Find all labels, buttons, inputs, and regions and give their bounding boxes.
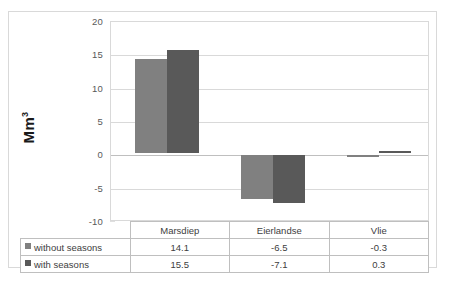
cell-with-seasons-vlie: 0.3 [329,256,429,273]
y-tick-label: 15 [92,49,103,60]
legend-swatch-icon [25,243,31,249]
category-header-marsdiep: Marsdiep [130,222,229,239]
gridline-15 [111,55,428,56]
data-table: Marsdiep Eierlandse Vlie without seasons… [20,221,429,273]
table-row-categories: Marsdiep Eierlandse Vlie [21,222,429,239]
y-axis-tick-labels: 20 15 10 5 0 -5 -10 [69,21,107,221]
table-corner-cell [21,222,131,239]
category-header-vlie: Vlie [329,222,429,239]
y-axis-title-text: Mm [21,116,38,142]
bar-marsdiep-with-seasons [167,50,199,153]
y-tick-label: 10 [92,82,103,93]
y-axis-title-superscript: 3 [21,111,31,116]
legend-item-without-seasons: without seasons [21,239,131,256]
bar-vlie-without-seasons [347,155,379,157]
y-tick-label: -5 [94,182,103,193]
y-axis-title: Mm3 [15,72,43,182]
bar-marsdiep-without-seasons [135,59,167,153]
table-row: with seasons 15.5 -7.1 0.3 [21,256,429,273]
plot-area [110,21,429,221]
bar-eierlandse-with-seasons [273,155,305,202]
bar-eierlandse-without-seasons [241,155,273,198]
legend-label-with-seasons: with seasons [34,259,89,270]
cell-with-seasons-eierlandse: -7.1 [230,256,329,273]
cell-with-seasons-marsdiep: 15.5 [130,256,229,273]
bar-vlie-with-seasons [379,151,411,153]
chart-figure: Mm3 20 15 10 5 0 -5 -10 [8,11,437,268]
table-row: without seasons 14.1 -6.5 -0.3 [21,239,429,256]
y-tick-label: 0 [98,149,103,160]
cell-without-seasons-vlie: -0.3 [329,239,429,256]
category-header-eierlandse: Eierlandse [230,222,329,239]
legend-swatch-icon [25,260,31,266]
cell-without-seasons-eierlandse: -6.5 [230,239,329,256]
legend-label-without-seasons: without seasons [34,242,102,253]
y-tick-label: 5 [98,116,103,127]
cell-without-seasons-marsdiep: 14.1 [130,239,229,256]
legend-item-with-seasons: with seasons [21,256,131,273]
y-tick-label: 20 [92,16,103,27]
